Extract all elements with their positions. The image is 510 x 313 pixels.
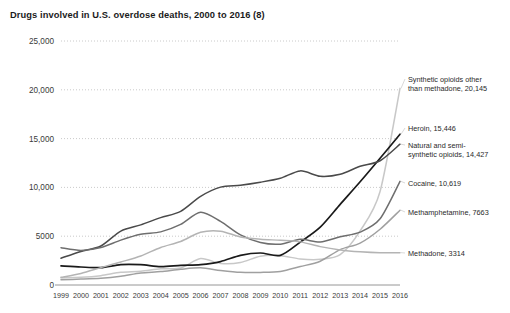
y-axis-tick-label: 15,000	[29, 135, 54, 144]
label-leader-line	[401, 181, 405, 183]
label-leader-line	[401, 79, 405, 88]
x-axis-tick-label: 2009	[252, 291, 268, 300]
series-label: Methadone, 3314	[408, 249, 465, 258]
series-line	[61, 181, 400, 250]
series-line	[61, 144, 400, 258]
leader-lines	[401, 79, 405, 253]
x-axis-tick-label: 2002	[113, 291, 129, 300]
series-line	[61, 134, 400, 267]
x-axis-tick-label: 2013	[332, 291, 348, 300]
series-label: Cocaine, 10,619	[408, 179, 461, 188]
series-label-continued: than methadone, 20,145	[408, 84, 487, 93]
y-axis-tick-label: 5000	[36, 232, 55, 241]
x-axis-tick-label: 2012	[312, 291, 328, 300]
data-series	[61, 88, 400, 279]
x-axis-tick-label: 2015	[372, 291, 388, 300]
x-axis-tick-label: 1999	[53, 291, 69, 300]
series-label: Natural and semi-	[408, 141, 466, 150]
x-axis-tick-label: 2001	[93, 291, 109, 300]
x-axis-tick-label: 2016	[392, 291, 408, 300]
label-leader-line	[401, 210, 405, 212]
series-label: Heroin, 15,446	[408, 124, 456, 133]
x-axis-tick-label: 2000	[73, 291, 89, 300]
series-line	[61, 210, 400, 279]
x-axis-tick-label: 2014	[352, 291, 368, 300]
series-line	[61, 88, 400, 278]
y-axis-tick-label: 20,000	[29, 86, 54, 95]
series-label: Synthetic opioids other	[408, 75, 482, 84]
x-axis-tick-label: 2008	[232, 291, 248, 300]
x-axis-tick-label: 2004	[153, 291, 169, 300]
x-axis-tick-label: 2003	[133, 291, 149, 300]
x-axis-tick-label: 2007	[213, 291, 229, 300]
x-axis-tick-label: 2010	[272, 291, 288, 300]
x-axis-tick-label: 2006	[193, 291, 209, 300]
y-axis-tick-label: 0	[49, 281, 54, 290]
label-leader-line	[401, 128, 405, 134]
label-leader-line	[401, 144, 405, 145]
y-axis-tick-label: 10,000	[29, 183, 54, 192]
x-axis-tick-label: 2005	[173, 291, 189, 300]
x-axis-tick-label: 2011	[293, 291, 308, 300]
y-axis-tick-label: 25,000	[29, 37, 54, 46]
gridlines	[61, 41, 400, 236]
line-chart-plot: 0500010,00015,00020,00025,000 1999200020…	[0, 0, 510, 313]
series-label-continued: synthetic opioids, 14,427	[408, 150, 488, 159]
series-labels: Synthetic opioids otherthan methadone, 2…	[408, 75, 489, 258]
chart-root: Drugs involved in U.S. overdose deaths, …	[0, 0, 510, 313]
series-label: Methamphetamine, 7663	[408, 208, 489, 217]
y-axis-labels: 0500010,00015,00020,00025,000	[29, 37, 54, 290]
x-axis-labels: 1999200020012002200320042005200620072008…	[53, 291, 408, 300]
